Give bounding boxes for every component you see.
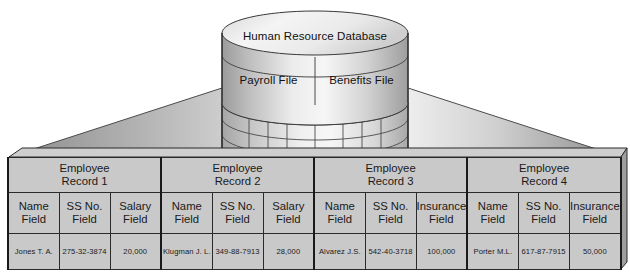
benefits-file-label: Benefits File bbox=[315, 74, 408, 86]
field-value: 50,000 bbox=[569, 234, 621, 270]
field-name-line2: Field bbox=[531, 213, 556, 225]
record-title-1: Employee Record 1 bbox=[8, 158, 161, 193]
record-title-line1: Employee bbox=[212, 162, 262, 174]
record-title-4: Employee Record 4 bbox=[467, 158, 621, 193]
field-header: Name Field bbox=[314, 193, 365, 234]
table-row-record-titles: Employee Record 1 Employee Record 2 Empl… bbox=[8, 158, 621, 193]
record-title-line2: Record 1 bbox=[62, 175, 108, 187]
field-name-line1: Insurance bbox=[570, 200, 620, 212]
field-name-line2: Field bbox=[22, 213, 47, 225]
field-name-line2: Field bbox=[481, 213, 506, 225]
database-title-label: Human Resource Database bbox=[0, 30, 630, 42]
field-value: Alvarez J.S. bbox=[314, 234, 365, 270]
field-header: SS No. Field bbox=[518, 193, 569, 234]
field-header: SS No. Field bbox=[59, 193, 110, 234]
database-cylinder bbox=[222, 11, 408, 125]
field-header: SS No. Field bbox=[365, 193, 416, 234]
employee-records-table: Employee Record 1 Employee Record 2 Empl… bbox=[7, 157, 620, 268]
field-name-line2: Field bbox=[175, 213, 200, 225]
field-header: Name Field bbox=[161, 193, 212, 234]
field-name-line1: Salary bbox=[272, 200, 304, 212]
field-name-line1: SS No. bbox=[373, 200, 409, 212]
field-name-line2: Field bbox=[328, 213, 353, 225]
field-name-line1: Name bbox=[172, 200, 202, 212]
record-title-3: Employee Record 3 bbox=[314, 158, 467, 193]
record-title-line1: Employee bbox=[365, 162, 415, 174]
table-row-values: Jones T. A. 275-32-3874 20,000 Klugman J… bbox=[8, 234, 621, 270]
field-value: 349-88-7913 bbox=[212, 234, 263, 270]
field-name-line1: Name bbox=[19, 200, 49, 212]
record-title-line2: Record 3 bbox=[368, 175, 414, 187]
field-name-line2: Field bbox=[429, 213, 454, 225]
field-header: Name Field bbox=[8, 193, 59, 234]
field-name-line2: Field bbox=[72, 213, 97, 225]
field-header: Salary Field bbox=[263, 193, 314, 234]
field-name-line1: SS No. bbox=[526, 200, 562, 212]
field-value: 275-32-3874 bbox=[59, 234, 110, 270]
database-structure-diagram: Human Resource Database Payroll File Ben… bbox=[0, 0, 630, 275]
field-name-line1: Name bbox=[478, 200, 508, 212]
field-header: Insurance Field bbox=[416, 193, 467, 234]
field-header: Salary Field bbox=[110, 193, 161, 234]
field-name-line2: Field bbox=[583, 213, 608, 225]
field-name-line1: Name bbox=[325, 200, 355, 212]
field-value: 28,000 bbox=[263, 234, 314, 270]
field-header: Name Field bbox=[467, 193, 518, 234]
field-header: SS No. Field bbox=[212, 193, 263, 234]
field-name-line2: Field bbox=[123, 213, 148, 225]
field-value: 100,000 bbox=[416, 234, 467, 270]
record-title-line1: Employee bbox=[59, 162, 109, 174]
field-value: Porter M.L. bbox=[467, 234, 518, 270]
field-name-line2: Field bbox=[276, 213, 301, 225]
field-name-line1: Insurance bbox=[417, 200, 467, 212]
field-name-line1: SS No. bbox=[220, 200, 256, 212]
record-title-line2: Record 4 bbox=[521, 175, 567, 187]
payroll-file-label: Payroll File bbox=[222, 74, 315, 86]
record-title-line1: Employee bbox=[519, 162, 569, 174]
field-value: 542-40-3718 bbox=[365, 234, 416, 270]
record-title-2: Employee Record 2 bbox=[161, 158, 314, 193]
field-name-line2: Field bbox=[225, 213, 250, 225]
field-name-line1: SS No. bbox=[67, 200, 103, 212]
field-value: Jones T. A. bbox=[8, 234, 59, 270]
field-name-line1: Salary bbox=[119, 200, 151, 212]
record-title-line2: Record 2 bbox=[215, 175, 261, 187]
field-value: 20,000 bbox=[110, 234, 161, 270]
field-value: Klugman J. L. bbox=[161, 234, 212, 270]
field-value: 617-87-7915 bbox=[518, 234, 569, 270]
table-row-field-names: Name Field SS No. Field Salary Field Nam… bbox=[8, 193, 621, 234]
field-name-line2: Field bbox=[378, 213, 403, 225]
field-header: Insurance Field bbox=[569, 193, 621, 234]
